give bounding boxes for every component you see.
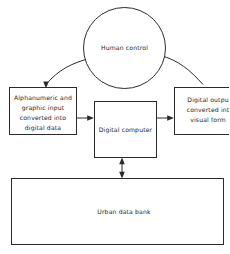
node-urban-data-bank[interactable]: Urban data bank — [12, 179, 224, 245]
edge-computer-to-data-bank-arrowhead-top — [119, 158, 125, 165]
node-input-label-line2: graphic input — [22, 104, 65, 112]
edge-input-to-computer-arrowhead — [87, 115, 94, 121]
flow-diagram: Human control Alphanumeric and graphic i… — [0, 0, 229, 254]
node-human-control-label: Human control — [101, 44, 148, 51]
node-digital-computer[interactable]: Digital computer — [95, 102, 157, 158]
diagram-canvas: Human control Alphanumeric and graphic i… — [0, 0, 229, 254]
edge-output-to-human-line — [161, 56, 204, 85]
edge-computer-to-data-bank-arrowhead-bottom — [119, 172, 125, 179]
node-input-label-line4: digital data — [25, 124, 62, 132]
node-output[interactable]: Digital outpu converted int visual form — [175, 88, 230, 135]
node-input-label-line1: Alphanumeric and — [14, 94, 72, 102]
edge-computer-to-data-bank — [119, 158, 125, 179]
node-digital-computer-label: Digital computer — [99, 126, 153, 134]
node-human-control[interactable]: Human control — [84, 8, 166, 89]
edge-computer-to-output — [157, 115, 174, 121]
edge-computer-to-output-arrowhead — [167, 115, 174, 121]
node-input-label-line3: converted into — [20, 114, 67, 121]
node-input[interactable]: Alphanumeric and graphic input converted… — [10, 88, 77, 135]
edge-human-to-input — [43, 59, 89, 89]
edge-human-to-input-line — [46, 59, 90, 85]
edge-input-to-computer — [77, 115, 94, 121]
node-output-label-line3: visual form — [190, 116, 226, 123]
node-output-label-line2: converted int — [187, 106, 229, 113]
node-output-label-line1: Digital outpu — [187, 96, 228, 104]
node-urban-data-bank-label: Urban data bank — [97, 208, 151, 215]
